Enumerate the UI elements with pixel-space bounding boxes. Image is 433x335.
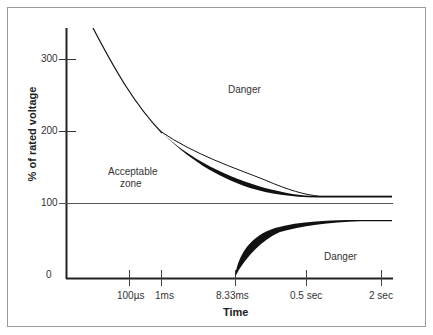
acceptable-zone-label-line2: zone <box>120 178 142 189</box>
x-axis-label: Time <box>223 306 248 318</box>
y-axis-label: % of rated voltage <box>26 74 38 194</box>
x-tick-1ms: 1ms <box>155 290 174 301</box>
y-tick-100: 100 <box>41 197 58 208</box>
lower-tolerance-band <box>235 220 392 277</box>
x-tick-2sec: 2 sec <box>369 290 393 301</box>
y-tick-300: 300 <box>41 53 58 64</box>
y-tick-200: 200 <box>41 125 58 136</box>
y-tick-0: 0 <box>46 269 52 280</box>
danger-lower-label: Danger <box>324 251 357 262</box>
upper-tolerance-band <box>160 131 392 198</box>
upper-curve <box>93 28 162 133</box>
x-tick-0-5sec: 0.5 sec <box>290 290 322 301</box>
chart-plot <box>0 0 433 335</box>
danger-upper-label: Danger <box>228 84 261 95</box>
x-tick-8-33ms: 8.33ms <box>216 290 249 301</box>
x-tick-100us: 100µs <box>117 290 144 301</box>
acceptable-zone-label-line1: Acceptable <box>108 166 157 177</box>
